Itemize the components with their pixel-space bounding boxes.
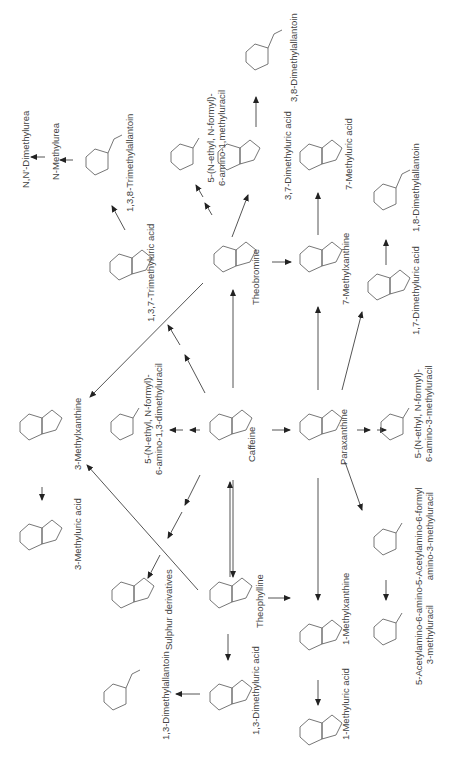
label-7-methyluric-acid: 7-Methyluric acid bbox=[343, 118, 354, 190]
label-famu-1: 5-(N-ethyl, N-formyl)- 6-amino-1,methylu… bbox=[205, 90, 227, 186]
label-theophylline: Theophylline bbox=[254, 574, 265, 628]
label-famu-13: 5-(N-ethyl, N-formyl)- 6-amino-1,3-dimet… bbox=[142, 363, 164, 475]
label-famu-3: 5-(N-ethyl, N-formyl)- 6-amino-3-methylu… bbox=[412, 365, 434, 462]
label-13-dimethyluric-acid: 1,3-Dimethyluric acid bbox=[250, 646, 261, 735]
label-nn-dimethylurea: N,N'-Dimethylurea bbox=[20, 111, 31, 188]
label-138-trimethylallantoin: 1,3,8-Trimethylallantoin bbox=[124, 114, 135, 212]
label-n-methylurea: N-Methylurea bbox=[50, 123, 61, 180]
label-caffeine: Caffeine bbox=[246, 427, 257, 462]
label-38-dimethylallantoin: 3,8-Dimethylallantoin bbox=[288, 13, 299, 102]
label-3-methyluric-acid: 3-Methyluric acid bbox=[72, 498, 83, 570]
label-1-methylxanthine: 1-Methylxanthine bbox=[340, 573, 351, 645]
label-sulphur-derivatives: Sulphur derivatives bbox=[163, 569, 174, 650]
label-137-trimethyluric-acid: 1,3,7-Trimethyluric acid bbox=[145, 224, 156, 322]
pathway-diagram: Caffeine Theobromine Paraxanthine Theoph… bbox=[0, 0, 453, 775]
label-3-methylxanthine: 3-Methylxanthine bbox=[72, 398, 83, 470]
label-theobromine: Theobromine bbox=[250, 249, 261, 305]
label-37-dimethyluric-acid: 3,7-Dimethyluric acid bbox=[282, 111, 293, 200]
label-afmu: 5-Acetylamino-6-formyl amino-3-methylura… bbox=[413, 487, 435, 585]
label-1-methyluric-acid: 1-Methyluric acid bbox=[340, 668, 351, 740]
label-13-dimethylallantoin: 1,3-Dimethylallantoin bbox=[160, 651, 171, 740]
label-7-methylxanthine: 7-Methylxanthine bbox=[340, 233, 351, 305]
label-18-dimethylallantoin: 1,8-Dimethylallantoin bbox=[410, 143, 421, 232]
label-aamu: 5-Acetylamino-6-amino- 3-methyluracil bbox=[413, 584, 435, 685]
label-17-dimethyluric-acid: 1,7-Dimethyluric acid bbox=[410, 246, 421, 335]
label-paraxanthine: Paraxanthine bbox=[338, 409, 349, 465]
